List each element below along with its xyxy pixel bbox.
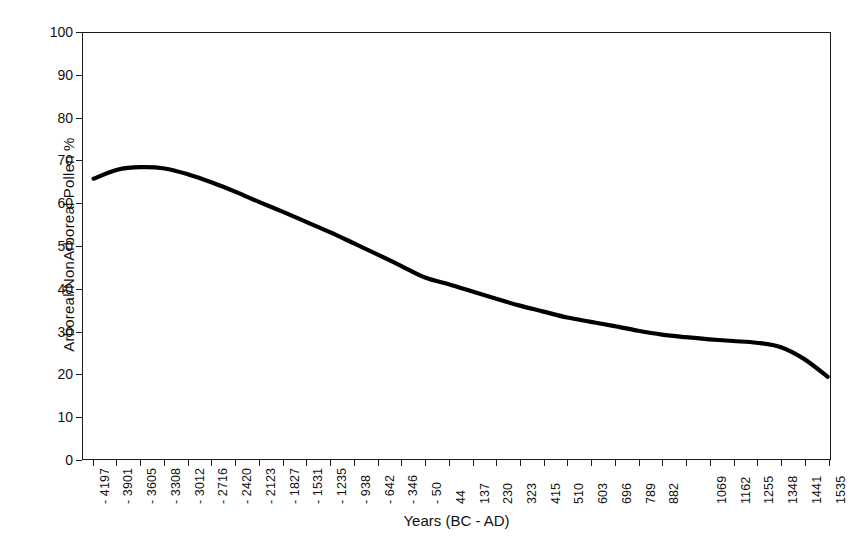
x-tick-mark	[188, 460, 189, 466]
x-tick-label: 415	[549, 483, 563, 504]
x-axis-ticks: - 4197- 3901- 3605- 3308- 3012- 2716- 24…	[0, 0, 852, 553]
x-tick-mark	[757, 460, 758, 466]
x-tick-label: - 1827	[288, 468, 302, 504]
x-tick-label: 1162	[739, 477, 753, 504]
x-tick-label: 510	[572, 483, 586, 504]
pollen-line-chart-figure: Arboreal/NonArboreal Pollen % 1009080706…	[0, 0, 852, 553]
x-tick-mark	[544, 460, 545, 466]
x-tick-mark	[116, 460, 117, 466]
x-tick-mark	[306, 460, 307, 466]
x-tick-mark	[259, 460, 260, 466]
x-tick-label: 1441	[810, 476, 824, 504]
x-tick-mark	[805, 460, 806, 466]
x-tick-label: - 2420	[240, 468, 254, 504]
x-tick-mark	[686, 460, 687, 466]
x-tick-label: - 3901	[121, 468, 135, 504]
x-tick-mark	[639, 460, 640, 466]
x-tick-label: 230	[501, 483, 515, 504]
x-tick-label: 137	[478, 483, 492, 504]
x-tick-mark	[378, 460, 379, 466]
x-tick-label: - 3605	[145, 468, 159, 504]
x-tick-label: 1348	[786, 476, 800, 504]
x-tick-label: - 4197	[98, 468, 112, 504]
x-tick-label: 44	[454, 490, 468, 504]
x-tick-mark	[591, 460, 592, 466]
x-tick-label: - 346	[406, 475, 420, 504]
x-tick-mark	[734, 460, 735, 466]
x-tick-label: - 642	[383, 475, 397, 504]
x-tick-mark	[567, 460, 568, 466]
x-tick-label: - 3308	[169, 468, 183, 504]
x-axis-title: Years (BC - AD)	[82, 512, 831, 529]
x-tick-mark	[164, 460, 165, 466]
x-tick-label: - 2716	[216, 468, 230, 504]
x-tick-label: 1535	[834, 476, 848, 504]
x-tick-mark	[140, 460, 141, 466]
x-tick-mark	[354, 460, 355, 466]
x-tick-mark	[93, 460, 94, 466]
x-tick-label: - 1531	[311, 468, 325, 504]
x-tick-mark	[425, 460, 426, 466]
x-tick-mark	[283, 460, 284, 466]
x-tick-label: - 3012	[193, 468, 207, 504]
x-tick-label: - 1235	[335, 468, 349, 504]
x-tick-mark	[710, 460, 711, 466]
x-tick-mark	[330, 460, 331, 466]
x-tick-label: - 2123	[264, 468, 278, 504]
x-tick-label: 323	[525, 483, 539, 504]
x-tick-label: 603	[596, 483, 610, 504]
x-tick-mark	[211, 460, 212, 466]
x-tick-mark	[401, 460, 402, 466]
x-tick-label: 1069	[715, 476, 729, 504]
x-tick-mark	[235, 460, 236, 466]
x-tick-mark	[781, 460, 782, 466]
x-tick-label: 696	[620, 483, 634, 504]
x-tick-mark	[615, 460, 616, 466]
x-tick-mark	[829, 460, 830, 466]
x-tick-mark	[496, 460, 497, 466]
x-tick-mark	[520, 460, 521, 466]
x-tick-mark	[662, 460, 663, 466]
x-tick-label: - 50	[430, 482, 444, 504]
x-tick-label: 882	[667, 483, 681, 504]
x-tick-mark	[473, 460, 474, 466]
x-tick-label: - 938	[359, 475, 373, 504]
x-tick-label: 1255	[762, 476, 776, 504]
x-tick-label: 789	[644, 483, 658, 504]
x-tick-mark	[449, 460, 450, 466]
